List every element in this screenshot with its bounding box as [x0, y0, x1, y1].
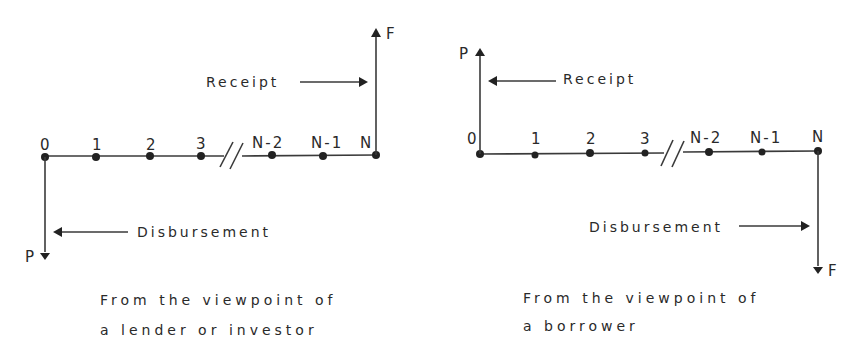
period-label: N-1 [750, 129, 782, 147]
present-value-symbol: P [25, 248, 36, 266]
arrow-left-icon [53, 227, 62, 237]
arrow-right-icon [801, 221, 810, 231]
present-value-symbol: P [459, 45, 470, 63]
arrow-up-icon [371, 28, 381, 37]
period-label: N [360, 134, 373, 152]
receipt-label: Receipt [206, 74, 279, 90]
period-dot-3 [197, 152, 205, 160]
period-label: N-1 [311, 134, 343, 152]
receipt-label: Receipt [563, 71, 636, 87]
period-label: 0 [40, 136, 52, 154]
future-value-symbol: F [828, 262, 839, 280]
timeline-axis-left-segment [480, 153, 664, 154]
period-label: 3 [640, 130, 652, 148]
caption-line-1: From the viewpoint of [523, 290, 759, 306]
period-dot-3 [642, 150, 649, 157]
lender-cash-flow-diagram: 0 1 2 3 N-2 N-1 N F Receipt P Disburseme… [25, 25, 397, 338]
period-dot-n-2 [268, 151, 276, 159]
period-label: N [812, 128, 825, 146]
arrow-up-icon [475, 48, 485, 56]
period-label: 3 [196, 135, 208, 153]
period-label: 2 [586, 130, 598, 148]
timeline-axis-right-segment [242, 155, 376, 156]
caption-line-1: From the viewpoint of [100, 292, 336, 308]
arrow-down-icon [40, 253, 50, 260]
period-label: N-2 [252, 134, 284, 152]
period-label: 1 [92, 136, 104, 154]
period-dot-n-1 [319, 152, 327, 160]
period-label: 0 [467, 130, 479, 148]
cash-flow-diagrams: 0 1 2 3 N-2 N-1 N F Receipt P Disburseme… [0, 0, 855, 354]
timeline-break-icon [661, 140, 684, 167]
timeline-axis-right-segment [683, 151, 818, 152]
disbursement-label: Disbursement [137, 224, 271, 240]
period-label: 2 [146, 136, 158, 154]
period-label: 1 [531, 130, 543, 148]
future-value-symbol: F [386, 25, 397, 43]
period-dot-n-2 [705, 148, 713, 156]
disbursement-label: Disbursement [589, 219, 723, 235]
arrow-right-icon [359, 77, 368, 87]
caption-line-2: a lender or investor [100, 322, 318, 338]
arrow-down-icon [813, 267, 823, 274]
period-dot-1 [532, 152, 539, 159]
period-dot-1 [92, 153, 100, 161]
arrow-left-icon [488, 76, 497, 86]
caption-line-2: a borrower [523, 318, 639, 334]
period-dot-n-1 [759, 149, 766, 156]
period-dot-2 [586, 149, 594, 157]
borrower-cash-flow-diagram: 0 1 2 3 N-2 N-1 N P Receipt F Disburseme… [459, 45, 839, 334]
period-label: N-2 [690, 129, 722, 147]
